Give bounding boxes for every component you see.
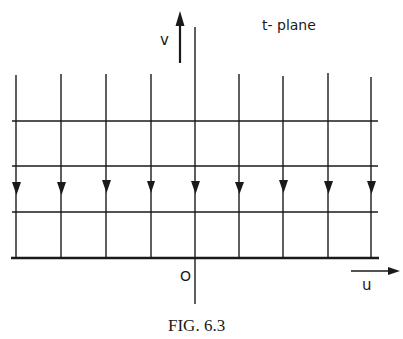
arrow-down-icon [12,182,21,195]
arrow-down-icon [147,181,155,193]
origin-label: O [180,268,191,284]
flow-arrowheads [12,180,376,195]
arrow-right-icon [388,267,400,275]
arrow-down-icon [57,182,66,195]
u-direction-arrow [351,267,400,275]
u-axis-label: u [362,276,372,294]
v-direction-arrow [176,11,185,63]
arrow-down-icon [367,181,376,194]
arrow-up-icon [176,11,185,26]
figure-caption: FIG. 6.3 [168,316,225,335]
v-axis-label: v [160,31,169,49]
t-plane-diagram: v t- plane O u FIG. 6.3 [0,0,403,339]
arrow-down-icon [102,180,111,193]
plane-label: t- plane [262,17,316,33]
arrow-down-icon [324,181,333,194]
arrow-down-icon [191,181,200,194]
arrow-down-icon [235,182,244,194]
arrow-down-icon [279,180,288,193]
